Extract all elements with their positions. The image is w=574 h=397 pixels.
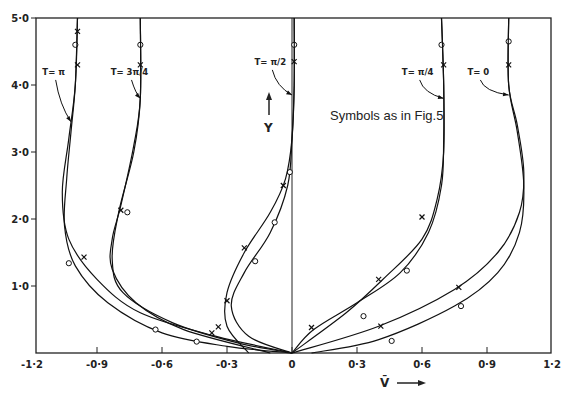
series-line: [64, 18, 292, 353]
circle-marker: [272, 220, 277, 225]
curve-label: T= π/4: [402, 67, 434, 77]
circle-marker: [361, 314, 366, 319]
circle-marker: [439, 42, 444, 47]
cross-marker: [376, 277, 381, 282]
series-t-b-: [62, 18, 292, 353]
series-t-a-: [64, 18, 292, 353]
y-axis-label: Y: [263, 121, 273, 135]
curve-label: T= 3π/4: [111, 67, 149, 77]
circle-marker: [404, 268, 409, 273]
circle-marker: [389, 338, 394, 343]
series-line: [62, 18, 292, 353]
circle-marker: [458, 304, 463, 309]
chart: -1·2-0·9-0·6-0·300·30·60·91·21·02·03·04·…: [0, 0, 574, 397]
circle-marker: [66, 261, 71, 266]
x-tick-label: 0·9: [478, 359, 496, 370]
curve-label: T= π/2: [255, 57, 287, 67]
y-axis-title: Y: [263, 92, 273, 135]
cross-marker: [216, 324, 221, 329]
curve-label: T= 0: [467, 67, 489, 77]
label-arrow: [420, 80, 444, 98]
x-tick-label: 1·2: [543, 359, 561, 370]
y-tick-label: 5·0: [11, 13, 29, 24]
label-arrowhead: [286, 91, 292, 96]
x-tick-label: -0·9: [86, 359, 108, 370]
series-t-2-a-: [231, 18, 297, 353]
y-tick-label: 1·0: [11, 281, 29, 292]
x-arrow-head: [418, 380, 426, 386]
label-arrowhead: [503, 92, 509, 96]
label-arrow: [56, 80, 71, 122]
label-arrowhead: [438, 95, 444, 99]
circle-marker: [194, 339, 199, 344]
x-tick-label: -1·2: [21, 359, 43, 370]
x-tick-label: 0·3: [348, 359, 366, 370]
x-tick-label: -0·6: [151, 359, 173, 370]
label-arrowhead: [66, 116, 71, 122]
circle-marker: [253, 259, 258, 264]
label-arrowhead: [135, 93, 140, 99]
y-tick-label: 2·0: [11, 214, 29, 225]
x-tick-label: 0: [289, 359, 296, 370]
y-tick-label: 4·0: [11, 80, 29, 91]
cross-marker: [309, 325, 314, 330]
x-tick-label: 0·6: [413, 359, 431, 370]
y-arrow-head: [266, 92, 272, 100]
series-t-2-b-: [225, 18, 297, 353]
x-tick-label: -0·3: [216, 359, 238, 370]
series-line: [231, 18, 294, 353]
annotation-text: Symbols as in Fig.5: [330, 108, 443, 123]
cross-marker: [242, 245, 247, 250]
cross-marker: [82, 255, 87, 260]
label-arrow: [272, 70, 292, 95]
circle-marker: [153, 327, 158, 332]
curve-label: T= π: [42, 67, 65, 77]
y-tick-label: 3·0: [11, 147, 29, 158]
circle-marker: [125, 210, 130, 215]
x-axis-title: V̄: [380, 375, 426, 390]
x-axis-label: V̄: [380, 375, 390, 390]
cross-marker: [420, 214, 425, 219]
